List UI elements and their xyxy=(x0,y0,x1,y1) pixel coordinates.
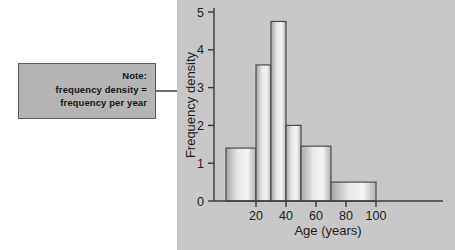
histogram-chart: 012345 20406080100 Age (years) Frequency… xyxy=(177,0,455,250)
y-tick-label: 4 xyxy=(197,43,204,57)
bars-group xyxy=(226,21,376,201)
histogram-bar xyxy=(256,65,271,201)
y-tick-label: 1 xyxy=(197,157,204,171)
x-tick-label: 40 xyxy=(279,209,293,223)
x-tick-label: 60 xyxy=(309,209,323,223)
y-tick-label: 3 xyxy=(197,81,204,95)
histogram-bar xyxy=(301,146,331,201)
chart-panel: 012345 20406080100 Age (years) Frequency… xyxy=(177,0,455,250)
y-ticks-group: 012345 xyxy=(197,6,214,209)
histogram-bar xyxy=(271,21,286,201)
histogram-bar xyxy=(226,148,256,201)
x-tick-label: 80 xyxy=(339,209,353,223)
note-line-3: frequency per year xyxy=(23,96,147,110)
x-ticks-group: 20406080100 xyxy=(249,201,386,223)
note-line-1: Note: xyxy=(23,69,147,83)
note-callout-box: Note: frequency density = frequency per … xyxy=(18,63,156,119)
y-tick-label: 0 xyxy=(197,195,204,209)
y-axis-title: Frequency density xyxy=(183,51,198,158)
note-line-2: frequency density = xyxy=(23,83,147,97)
histogram-bar xyxy=(331,182,376,201)
y-tick-label: 2 xyxy=(197,119,204,133)
histogram-bar xyxy=(286,125,301,201)
y-tick-label: 5 xyxy=(197,6,204,20)
x-tick-label: 20 xyxy=(249,209,263,223)
x-axis-title: Age (years) xyxy=(294,223,361,238)
x-tick-label: 100 xyxy=(366,209,387,223)
